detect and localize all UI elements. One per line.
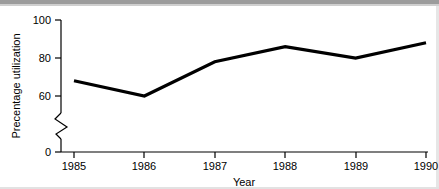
x-tick-label-1986: 1986	[132, 160, 156, 172]
y-tick-label-100: 100	[33, 14, 51, 26]
line-chart-plot: 100 80 60 0 1985 1986 1987 1988 1989 199…	[0, 0, 439, 189]
y-tick-label-80: 80	[39, 52, 51, 64]
x-tick-label-1988: 1988	[273, 160, 297, 172]
axis-break-zigzag-icon	[55, 113, 67, 139]
x-axis-title: Year	[233, 176, 256, 188]
data-series-line	[74, 43, 426, 96]
x-tick-label-1989: 1989	[344, 160, 368, 172]
y-axis-title: Precentage utilization	[10, 33, 22, 138]
chart-figure: 100 80 60 0 1985 1986 1987 1988 1989 199…	[0, 0, 439, 189]
y-tick-label-0: 0	[45, 146, 51, 158]
x-tick-label-1990: 1990	[414, 160, 438, 172]
y-tick-label-60: 60	[39, 90, 51, 102]
x-tick-label-1985: 1985	[62, 160, 86, 172]
x-tick-label-1987: 1987	[203, 160, 227, 172]
